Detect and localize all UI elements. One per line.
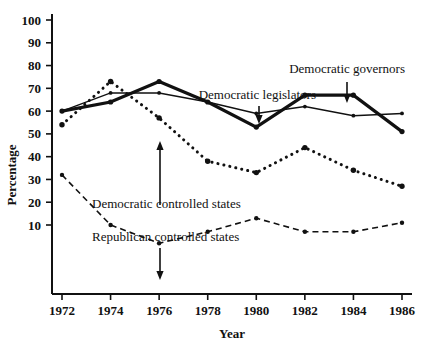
data-point xyxy=(400,112,404,116)
y-axis-title: Percentage xyxy=(4,144,19,205)
data-point xyxy=(109,91,113,95)
data-point xyxy=(108,99,113,104)
y-tick-label: 30 xyxy=(28,172,41,187)
annotation-label: Democratic controlled states xyxy=(92,196,241,211)
data-point xyxy=(351,230,355,234)
series-layer xyxy=(59,79,404,246)
data-point xyxy=(60,109,64,113)
x-tick-label: 1978 xyxy=(195,303,222,318)
line-chart: 100908070605040302010 197219741976197819… xyxy=(0,0,421,345)
data-point xyxy=(254,216,258,220)
x-axis-tick-labels: 19721974197619781980198219841986 xyxy=(49,303,416,318)
x-tick-label: 1976 xyxy=(146,303,173,318)
y-tick-label: 70 xyxy=(28,81,41,96)
y-tick-label: 100 xyxy=(22,13,42,28)
data-point xyxy=(303,230,307,234)
y-tick-label: 50 xyxy=(28,126,41,141)
y-tick-label: 20 xyxy=(28,195,41,210)
y-tick-label: 80 xyxy=(28,58,41,73)
data-point xyxy=(157,79,162,84)
data-point xyxy=(303,105,307,109)
x-tick-label: 1974 xyxy=(98,303,125,318)
data-point xyxy=(400,221,404,225)
annotation-arrow-head xyxy=(156,141,163,150)
x-tick-label: 1982 xyxy=(292,303,318,318)
annotation-democratic-controlled-states: Democratic controlled states xyxy=(92,141,241,211)
x-tick-label: 1986 xyxy=(389,303,416,318)
y-tick-label: 90 xyxy=(28,35,41,50)
data-point xyxy=(352,114,356,118)
y-tick-label: 10 xyxy=(28,218,41,233)
data-point xyxy=(205,159,210,164)
data-point xyxy=(254,125,259,130)
data-point xyxy=(302,145,307,150)
data-point xyxy=(108,79,113,84)
axes xyxy=(52,14,412,294)
annotation-label: Democratic legislators xyxy=(199,87,316,102)
data-point xyxy=(156,115,161,120)
data-point xyxy=(399,184,404,189)
data-point xyxy=(157,91,161,95)
y-tick-label: 60 xyxy=(28,104,41,119)
annotation-label: Republican controlled states xyxy=(92,229,239,244)
x-tick-label: 1980 xyxy=(243,303,269,318)
data-point xyxy=(60,173,64,177)
y-axis-tick-labels: 100908070605040302010 xyxy=(22,13,42,233)
data-point xyxy=(351,93,356,98)
chart-container: 100908070605040302010 197219741976197819… xyxy=(0,0,421,345)
data-point xyxy=(399,129,404,134)
data-point xyxy=(351,168,356,173)
data-point xyxy=(254,112,258,116)
x-tick-label: 1984 xyxy=(340,303,367,318)
x-axis-title: Year xyxy=(219,326,245,341)
data-point xyxy=(59,122,64,127)
data-point xyxy=(254,170,259,175)
x-tick-label: 1972 xyxy=(49,303,75,318)
annotation-arrow-head xyxy=(343,94,350,103)
annotation-arrow-head xyxy=(156,271,163,280)
annotation-republican-controlled-states: Republican controlled states xyxy=(92,229,239,280)
annotation-label: Democratic governors xyxy=(289,61,405,76)
y-tick-label: 40 xyxy=(28,149,41,164)
data-point xyxy=(108,223,112,227)
